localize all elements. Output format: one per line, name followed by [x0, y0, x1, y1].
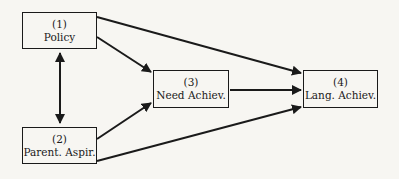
node-number: (2) — [52, 133, 67, 146]
edge-1-3 — [97, 37, 151, 72]
node-lang-achiev: (4) Lang. Achiev. — [303, 70, 378, 108]
edge-2-3 — [97, 103, 151, 139]
node-label: Parent. Aspir. — [24, 146, 96, 159]
node-need-achiev: (3) Need Achiev. — [153, 70, 229, 108]
node-number: (4) — [333, 76, 348, 89]
node-number: (3) — [184, 76, 199, 89]
edge-2-4 — [97, 107, 301, 161]
node-label: Need Achiev. — [156, 89, 226, 102]
node-number: (1) — [52, 18, 67, 31]
node-parent-aspir: (2) Parent. Aspir. — [22, 127, 97, 164]
node-policy: (1) Policy — [22, 12, 97, 49]
node-label: Lang. Achiev. — [305, 89, 376, 102]
node-label: Policy — [44, 31, 76, 44]
edge-1-4 — [97, 17, 301, 73]
